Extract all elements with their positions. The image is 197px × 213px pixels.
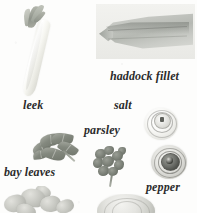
pepper-grinder-photograph: [149, 141, 191, 183]
grinder-core: [166, 157, 173, 164]
parsley-photograph: [90, 145, 136, 189]
ingredient-plate: leek haddock fillet salt parsley: [0, 0, 197, 213]
caption-pepper: pepper: [146, 181, 180, 193]
onion-photograph: [97, 194, 159, 213]
caption-parsley: parsley: [84, 124, 120, 136]
parsley-leaf-clump: [108, 167, 118, 176]
caption-leek: leek: [23, 99, 43, 111]
caption-bay-leaves: bay leaves: [4, 166, 55, 178]
salt-shaker-photograph: [141, 102, 183, 144]
caption-haddock-fillet: haddock fillet: [110, 70, 179, 82]
leek-photograph: [10, 4, 54, 98]
potatoes-photograph: [2, 186, 86, 213]
parsley-stem: [109, 174, 113, 187]
shaker-hole: [160, 117, 164, 122]
caption-salt: salt: [114, 99, 132, 111]
haddock-fillet-photograph: [96, 4, 195, 59]
